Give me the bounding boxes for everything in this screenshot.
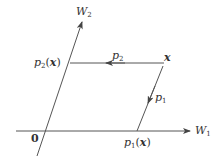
p1-arrow-icon [148,86,155,103]
w2-axis-line [37,22,82,156]
p2-of-x-label: p2(x) [34,57,61,70]
point-x-label: x [164,52,171,63]
w2-axis-label: W2 [76,6,92,19]
origin-label: 0 [31,133,39,144]
p1-of-x-label: p1(x) [124,137,151,150]
p1-operator-label: p1 [155,92,167,105]
w1-axis-label: W1 [195,125,211,138]
p2-operator-label: p2 [112,50,124,63]
